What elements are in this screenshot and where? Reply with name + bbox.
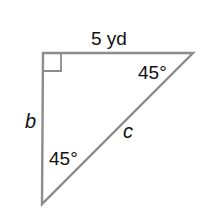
triangle	[42, 53, 193, 204]
top-side-label: 5 yd	[91, 28, 127, 49]
triangle-diagram: 5 yd 45° b c 45°	[0, 0, 204, 220]
bottom-angle-label: 45°	[49, 148, 78, 169]
hypotenuse-label: c	[123, 120, 133, 142]
top-right-angle-label: 45°	[138, 62, 167, 83]
left-side-label: b	[25, 110, 36, 132]
right-angle-marker	[43, 53, 61, 71]
